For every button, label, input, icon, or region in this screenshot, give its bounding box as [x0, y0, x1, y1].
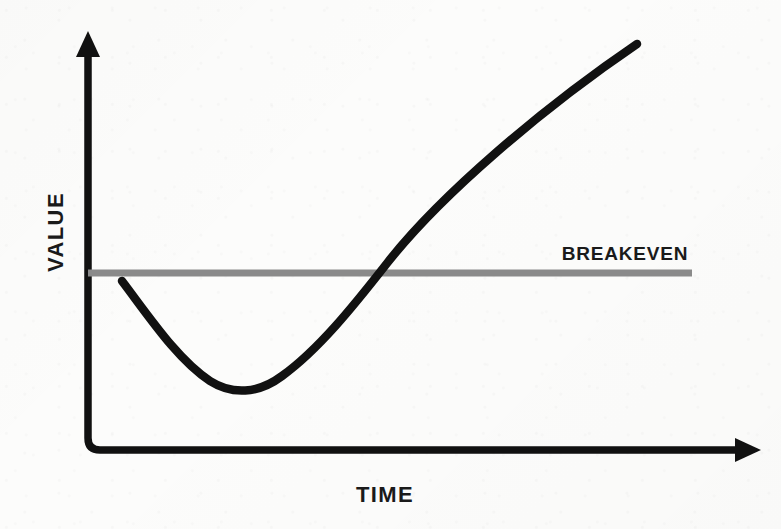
breakeven-chart: VALUE TIME BREAKEVEN: [0, 0, 781, 529]
x-axis-label: TIME: [356, 482, 414, 508]
y-axis-arrow-icon: [76, 31, 100, 57]
y-axis-label: VALUE: [43, 192, 69, 272]
value-curve-line: [122, 44, 637, 391]
breakeven-label: BREAKEVEN: [562, 243, 689, 265]
x-axis-arrow-icon: [735, 438, 761, 462]
